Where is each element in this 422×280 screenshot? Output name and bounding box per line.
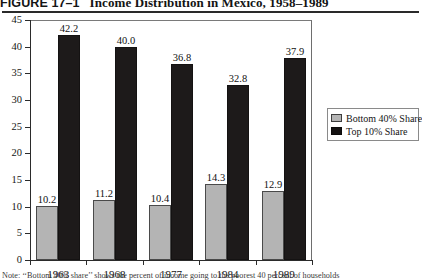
bar-bottom-40-1989 (262, 191, 284, 260)
y-axis-line (30, 20, 31, 261)
bar-bottom-40-1984 (205, 184, 227, 260)
y-axis-tick-label: 5 (0, 228, 22, 238)
bar-top-10-1984 (227, 85, 249, 260)
y-axis-tick-label: 35 (0, 68, 22, 78)
bar-bottom-40-1963 (36, 206, 58, 260)
x-axis-line (30, 260, 312, 261)
x-axis-tick (86, 260, 87, 265)
y-axis-tick (25, 207, 31, 208)
bar-value-label: 42.2 (52, 24, 86, 34)
bar-value-label: 40.0 (109, 36, 143, 46)
x-axis-tick (256, 260, 257, 265)
y-axis-tick (25, 153, 31, 154)
legend-swatch-icon-top-10 (331, 127, 342, 135)
y-axis-tick (25, 127, 31, 128)
bar-top-10-1989 (284, 58, 306, 260)
legend-swatch-icon-bottom-40 (331, 114, 342, 122)
y-axis-tick-label: 0 (0, 255, 22, 265)
bar-top-10-1977 (171, 64, 193, 260)
figure-number: FIGURE 17–1 (0, 0, 80, 10)
chart-plot-container: 051015202530354045 19631968197719841989 … (0, 14, 421, 262)
bar-top-10-1963 (58, 35, 80, 260)
figure-caption: Income Distribution in Mexico, 1958–1989 (90, 0, 329, 10)
legend-item-bottom-40: Bottom 40% Share (331, 112, 414, 124)
figure-note: Note: ‘‘Bottom 40% share’’ shows the per… (2, 271, 421, 280)
y-axis-tick-label: 10 (0, 202, 22, 212)
legend-label-top-10: Top 10% Share (346, 126, 408, 137)
figure-title: FIGURE 17–1Income Distribution in Mexico… (0, 0, 421, 11)
y-axis-tick-label: 25 (0, 122, 22, 132)
bar-bottom-40-1968 (93, 200, 115, 260)
y-axis-tick-label: 30 (0, 95, 22, 105)
bar-value-label: 36.8 (165, 53, 199, 63)
bar-value-label: 32.8 (221, 74, 255, 84)
y-axis-tick-label: 40 (0, 42, 22, 52)
x-axis-tick (143, 260, 144, 265)
title-divider-rule (2, 11, 419, 13)
y-axis-tick-label: 45 (0, 15, 22, 25)
y-axis-tick (25, 100, 31, 101)
y-axis-tick (25, 47, 31, 48)
y-axis-tick-label: 20 (0, 148, 22, 158)
bar-value-label: 37.9 (278, 47, 312, 57)
x-axis-tick (30, 260, 31, 265)
legend-item-top-10: Top 10% Share (331, 125, 414, 137)
y-axis-tick (25, 20, 31, 21)
y-axis-tick (25, 180, 31, 181)
y-axis-tick (25, 233, 31, 234)
y-axis-tick-label: 15 (0, 175, 22, 185)
bar-top-10-1968 (115, 47, 137, 260)
legend-label-bottom-40: Bottom 40% Share (346, 113, 422, 124)
x-axis-tick (312, 260, 313, 265)
x-axis-tick (199, 260, 200, 265)
y-axis-tick (25, 73, 31, 74)
chart-legend: Bottom 40% Share Top 10% Share (327, 108, 419, 141)
bar-bottom-40-1977 (149, 205, 171, 260)
